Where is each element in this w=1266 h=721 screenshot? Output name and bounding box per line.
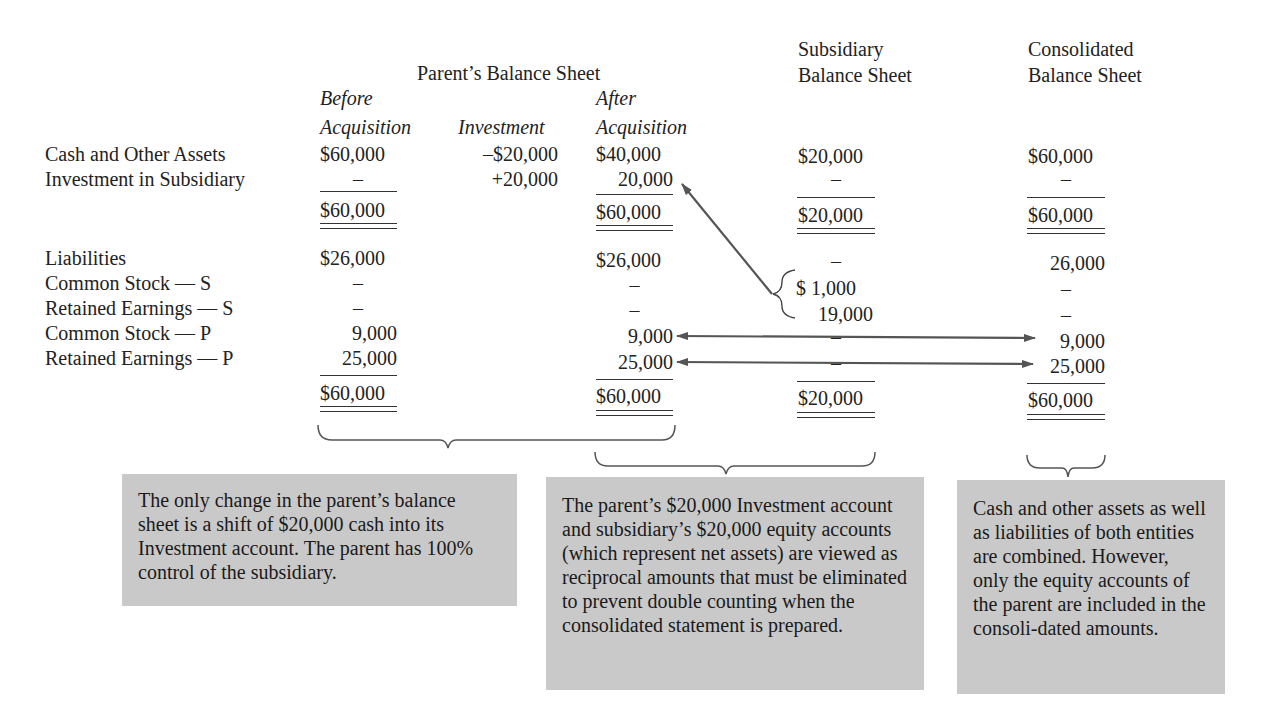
common-stock-p-arrow-icon [677,336,1035,338]
note-elimination-box: The parent’s $20,000 Investment account … [546,477,924,690]
retained-earnings-p-arrow-icon [677,362,1033,364]
note-consolidated-box: Cash and other assets as well as liabili… [957,480,1225,694]
elimination-bracket-icon [595,452,875,474]
consolidated-bracket-icon [1027,455,1105,477]
elimination-arrow-icon [682,184,772,294]
subsidiary-equity-brace-icon [773,270,795,318]
note-parent-box: The only change in the parent’s balance … [122,474,517,606]
parent-bracket-icon [318,425,675,448]
